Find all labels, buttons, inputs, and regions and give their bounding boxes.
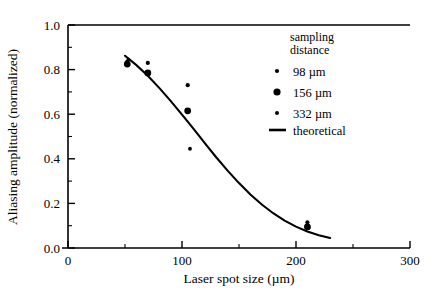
- data-point-332-µm: [307, 226, 311, 230]
- legend-label-332um: 332 µm: [293, 107, 332, 121]
- y-tick-label: 0.4: [44, 151, 61, 166]
- legend-label-theoretical: theoretical: [293, 124, 346, 138]
- legend-marker-156um: [273, 88, 280, 95]
- x-tick-label: 100: [172, 253, 192, 268]
- x-axis-ticks: [68, 241, 410, 248]
- y-tick-label: 0.0: [44, 241, 60, 256]
- data-point-332-µm: [188, 147, 192, 151]
- legend-marker-332um: [275, 111, 279, 115]
- theoretical-curve: [125, 56, 330, 238]
- y-tick-label: 0.6: [44, 107, 61, 122]
- y-axis-ticks: [68, 25, 75, 248]
- y-axis-title: Aliasing amplitude (normalized): [5, 49, 20, 225]
- y-tick-label: 0.2: [44, 196, 60, 211]
- chart-legend: sampling distance 98 µm 156 µm 332 µm th…: [269, 30, 346, 138]
- y-tick-label: 0.8: [44, 62, 60, 77]
- x-tick-label: 0: [65, 253, 72, 268]
- y-axis-tick-labels: 0.00.20.40.60.81.0: [44, 18, 61, 256]
- data-point-98-µm: [186, 83, 190, 87]
- x-tick-label: 200: [286, 253, 306, 268]
- data-point-156-µm: [124, 61, 131, 68]
- legend-title-line2: distance: [290, 43, 329, 57]
- x-tick-label: 300: [400, 253, 420, 268]
- data-point-98-µm: [146, 61, 150, 65]
- chart-figure: 0.00.20.40.60.81.0 0100200300 Laser spot…: [0, 0, 433, 297]
- data-point-156-µm: [144, 70, 151, 77]
- y-tick-label: 1.0: [44, 18, 60, 33]
- x-axis-title: Laser spot size (µm): [184, 271, 295, 286]
- data-point-group: [124, 58, 311, 231]
- legend-label-98um: 98 µm: [293, 65, 326, 79]
- data-point-156-µm: [184, 107, 191, 114]
- legend-title-line1: sampling: [290, 30, 334, 44]
- legend-label-156um: 156 µm: [293, 86, 332, 100]
- legend-marker-98um: [275, 69, 279, 73]
- aliasing-amplitude-scatter-plot: 0.00.20.40.60.81.0 0100200300 Laser spot…: [0, 0, 433, 297]
- plot-frame: [62, 25, 410, 248]
- x-axis-tick-labels: 0100200300: [65, 253, 420, 268]
- data-point-332-µm: [127, 58, 131, 62]
